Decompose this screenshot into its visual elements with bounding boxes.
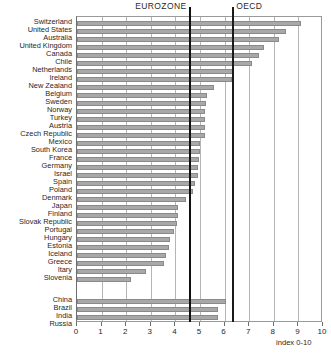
bar bbox=[77, 61, 252, 66]
x-tick-label: 9 bbox=[290, 327, 304, 337]
x-tick-mark bbox=[125, 322, 126, 326]
x-tick-mark bbox=[248, 322, 249, 326]
bar bbox=[77, 315, 218, 320]
bar-row bbox=[77, 173, 322, 178]
bar-row bbox=[77, 221, 322, 226]
bar-row bbox=[77, 229, 322, 234]
bar-row bbox=[77, 93, 322, 98]
bar bbox=[77, 237, 170, 242]
bar-row bbox=[77, 101, 322, 106]
bar-row bbox=[77, 213, 322, 218]
x-tick-label: 3 bbox=[143, 327, 157, 337]
reference-line-oecd bbox=[232, 7, 234, 322]
x-tick-label: 0 bbox=[69, 327, 83, 337]
bar-row bbox=[77, 61, 322, 66]
bar-row bbox=[77, 245, 322, 250]
bar bbox=[77, 173, 198, 178]
bar-row bbox=[77, 307, 322, 312]
bar bbox=[77, 205, 178, 210]
bar bbox=[77, 93, 207, 98]
x-tick-mark bbox=[101, 322, 102, 326]
bar-row bbox=[77, 189, 322, 194]
bar bbox=[77, 213, 178, 218]
bar bbox=[77, 149, 200, 154]
bar bbox=[77, 277, 131, 282]
x-tick-label: 2 bbox=[118, 327, 132, 337]
bar-row bbox=[77, 277, 322, 282]
bar bbox=[77, 181, 195, 186]
bar-row bbox=[77, 45, 322, 50]
bar-row bbox=[77, 157, 322, 162]
x-tick-mark bbox=[297, 322, 298, 326]
reference-label-oecd: OECD bbox=[236, 1, 262, 11]
x-tick-mark bbox=[199, 322, 200, 326]
x-axis-title: index 0-10 bbox=[276, 338, 311, 347]
reference-line-eurozone bbox=[189, 7, 191, 322]
bar-row bbox=[77, 181, 322, 186]
bar bbox=[77, 101, 206, 106]
bar-row bbox=[77, 269, 322, 274]
category-label: Slovenia bbox=[44, 274, 72, 282]
bar-row bbox=[77, 21, 322, 26]
bar bbox=[77, 85, 214, 90]
bar bbox=[77, 299, 226, 304]
bar-row bbox=[77, 253, 322, 258]
bar bbox=[77, 37, 279, 42]
bar bbox=[77, 117, 205, 122]
bar-row bbox=[77, 37, 322, 42]
reference-label-eurozone: EUROZONE bbox=[135, 1, 186, 11]
x-tick-label: 10 bbox=[315, 327, 329, 337]
x-tick-label: 5 bbox=[192, 327, 206, 337]
bar-row bbox=[77, 205, 322, 210]
bar bbox=[77, 253, 166, 258]
bar bbox=[77, 125, 205, 130]
x-tick-label: 4 bbox=[167, 327, 181, 337]
bar-row bbox=[77, 109, 322, 114]
bar bbox=[77, 189, 193, 194]
bar-row bbox=[77, 69, 322, 74]
bar bbox=[77, 29, 286, 34]
bar-row bbox=[77, 197, 322, 202]
bar bbox=[77, 229, 174, 234]
x-tick-mark bbox=[224, 322, 225, 326]
bar bbox=[77, 109, 205, 114]
x-tick-label: 8 bbox=[266, 327, 280, 337]
bar-row bbox=[77, 141, 322, 146]
x-tick-mark bbox=[150, 322, 151, 326]
bar bbox=[77, 245, 169, 250]
bar-row bbox=[77, 237, 322, 242]
bar-chart: EUROZONE OECD SwitzerlandUnited StatesAu… bbox=[0, 0, 331, 357]
bar bbox=[77, 261, 164, 266]
bar-row bbox=[77, 315, 322, 320]
bar-row bbox=[77, 117, 322, 122]
bar-row bbox=[77, 77, 322, 82]
bar bbox=[77, 141, 200, 146]
bar-row bbox=[77, 85, 322, 90]
bar bbox=[77, 307, 218, 312]
bar-row bbox=[77, 133, 322, 138]
bar bbox=[77, 221, 177, 226]
bar-row bbox=[77, 165, 322, 170]
bar bbox=[77, 45, 264, 50]
bar bbox=[77, 197, 186, 202]
bar bbox=[77, 133, 205, 138]
bar-row bbox=[77, 53, 322, 58]
bar-row bbox=[77, 29, 322, 34]
x-tick-label: 1 bbox=[94, 327, 108, 337]
bar-row bbox=[77, 299, 322, 304]
bar bbox=[77, 69, 233, 74]
bar-row bbox=[77, 125, 322, 130]
bar bbox=[77, 77, 232, 82]
bar bbox=[77, 269, 146, 274]
x-tick-label: 7 bbox=[241, 327, 255, 337]
x-tick-mark bbox=[273, 322, 274, 326]
x-tick-mark bbox=[76, 322, 77, 326]
x-tick-label: 6 bbox=[217, 327, 231, 337]
plot-area bbox=[76, 16, 322, 322]
bar bbox=[77, 157, 199, 162]
x-tick-mark bbox=[174, 322, 175, 326]
bar-row bbox=[77, 149, 322, 154]
x-tick-mark bbox=[322, 322, 323, 326]
bar-row bbox=[77, 261, 322, 266]
bar bbox=[77, 165, 198, 170]
